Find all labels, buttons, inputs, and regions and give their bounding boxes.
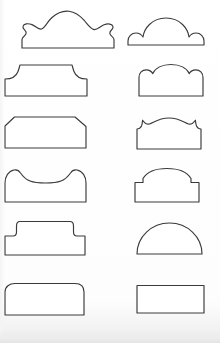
shape-cell-chamfered-corner-tablet: Flat top tablet with chamfered upper cor…: [4, 115, 90, 151]
flared-shoulder-tablet-outline: [5, 65, 87, 96]
shape-cell-cloud-dome-crest: Central dome with two rounded shoulder l…: [126, 12, 206, 47]
ogee-arch-notched-shoulders-drawing: Low segmental arch with notched ogee sho…: [136, 115, 216, 151]
shape-cell-stepped-table-top: Stepped table top with raised central pa…: [4, 218, 90, 258]
flared-shoulder-tablet-drawing: Flat top tablet with concave flared shou…: [4, 62, 90, 98]
concave-dipped-top-drawing: Shouldered tablet with concave dipped to…: [4, 167, 90, 205]
triple-lobe-arch-drawing: Broad central arch flanked by two should…: [138, 62, 214, 98]
round-top-corner-tablet-outline: [5, 284, 84, 316]
plain-rectangle-tablet-outline: [137, 286, 204, 314]
triple-scallop-crest-drawing: Triple scallop crest with lobed shoulder…: [18, 6, 106, 50]
semicircle-dome-drawing: Plain semicircular dome on flat base: [136, 222, 214, 256]
stepped-round-arch-outline: [135, 169, 199, 203]
concave-dipped-top-outline: [5, 170, 86, 202]
stepped-table-top-outline: [5, 222, 85, 256]
stepped-round-arch-drawing: Round arch rising from small stepped sho…: [134, 167, 214, 205]
shape-cell-stepped-round-arch: Round arch rising from small stepped sho…: [134, 167, 214, 205]
chamfered-corner-tablet-outline: [5, 117, 86, 148]
shape-cell-flared-shoulder-tablet: Flat top tablet with concave flared shou…: [4, 62, 90, 98]
shape-cell-concave-dipped-top: Shouldered tablet with concave dipped to…: [4, 167, 90, 205]
shape-cell-triple-scallop-crest: Triple scallop crest with lobed shoulder…: [18, 6, 106, 50]
shape-cell-semicircle-dome: Plain semicircular dome on flat base: [136, 222, 214, 256]
stepped-table-top-drawing: Stepped table top with raised central pa…: [4, 218, 90, 258]
triple-lobe-arch-outline: [139, 65, 203, 97]
shape-cell-round-top-corner-tablet: Rectangular tablet with rounded top corn…: [4, 282, 90, 318]
shape-grid: Triple scallop crest with lobed shoulder…: [0, 0, 220, 343]
shape-cell-triple-lobe-arch: Broad central arch flanked by two should…: [138, 62, 214, 98]
shape-cell-plain-rectangle-tablet: Plain rectangular tablet: [136, 284, 214, 316]
shape-plate: Triple scallop crest with lobed shoulder…: [0, 0, 220, 343]
plain-rectangle-tablet-drawing: Plain rectangular tablet: [136, 284, 214, 316]
cloud-dome-crest-drawing: Central dome with two rounded shoulder l…: [126, 12, 206, 47]
semicircle-dome-outline: [137, 223, 202, 254]
ogee-arch-notched-shoulders-outline: [137, 118, 201, 149]
chamfered-corner-tablet-drawing: Flat top tablet with chamfered upper cor…: [4, 115, 90, 151]
cloud-dome-crest-outline: [128, 18, 204, 45]
triple-scallop-crest-outline: [22, 11, 114, 48]
round-top-corner-tablet-drawing: Rectangular tablet with rounded top corn…: [4, 282, 90, 318]
shape-cell-ogee-arch-notched-shoulders: Low segmental arch with notched ogee sho…: [136, 115, 216, 151]
